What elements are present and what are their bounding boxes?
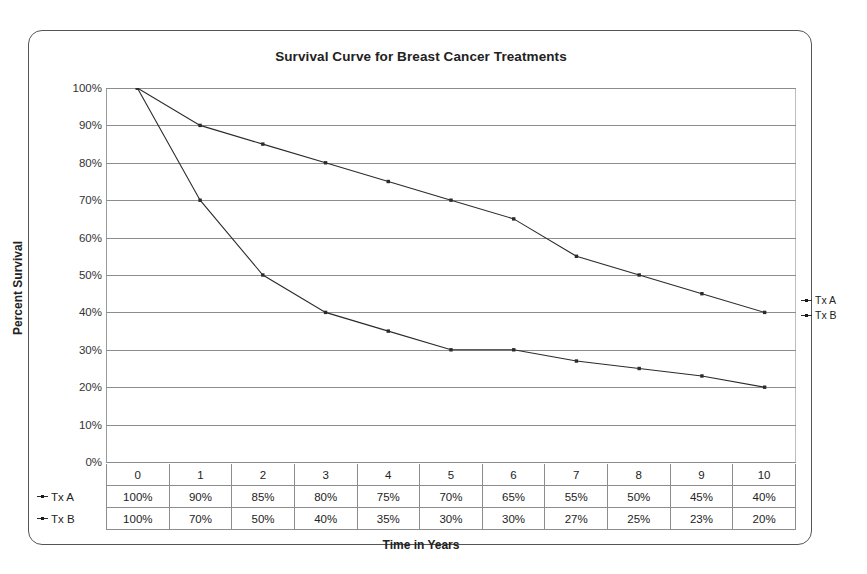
table-cell: 20% <box>733 508 796 530</box>
legend-marker-icon <box>37 515 48 523</box>
chart-title: Survival Curve for Breast Cancer Treatme… <box>29 49 813 64</box>
table-cell: 40% <box>733 486 796 508</box>
table-header-cell: 4 <box>357 464 420 486</box>
table-row-label-text: Tx A <box>51 491 74 503</box>
data-point-marker <box>700 374 703 377</box>
y-axis-tick-label: 100% <box>42 82 102 94</box>
data-point-marker <box>449 348 452 351</box>
legend: Tx ATx B <box>801 293 867 323</box>
table-cell: 30% <box>482 508 545 530</box>
y-axis-tick-label: 60% <box>42 232 102 244</box>
y-axis-tick-label: 20% <box>42 381 102 393</box>
data-point-marker <box>198 124 201 127</box>
series-line-tx-b <box>137 88 764 387</box>
data-point-marker <box>136 88 139 90</box>
table-header-cell: 9 <box>670 464 733 486</box>
data-point-marker <box>763 311 766 314</box>
table-row: 100%Tx A90%85%80%75%70%65%55%50%45%40% <box>107 486 796 508</box>
table-cell: 85% <box>232 486 295 508</box>
data-point-marker <box>324 311 327 314</box>
data-point-marker <box>763 386 766 389</box>
table-header-row: 012345678910 <box>107 464 796 486</box>
table-cell: 50% <box>232 508 295 530</box>
table-header-cell: 10 <box>733 464 796 486</box>
y-axis-tick-label: 80% <box>42 157 102 169</box>
data-point-marker <box>261 273 264 276</box>
data-point-marker <box>449 199 452 202</box>
legend-marker-icon <box>801 297 812 305</box>
data-point-marker <box>637 367 640 370</box>
table-cell: 30% <box>420 508 483 530</box>
data-point-marker <box>637 273 640 276</box>
table-cell: 75% <box>357 486 420 508</box>
table-header-cell: 6 <box>482 464 545 486</box>
data-point-marker <box>198 199 201 202</box>
y-axis-tick-label: 30% <box>42 344 102 356</box>
y-axis-tick-label: 40% <box>42 306 102 318</box>
chart-card: Survival Curve for Breast Cancer Treatme… <box>28 30 812 545</box>
table-header-cell: 3 <box>294 464 357 486</box>
table-cell: 55% <box>545 486 608 508</box>
series-lines <box>106 88 796 462</box>
table-header-cell: 2 <box>232 464 295 486</box>
table-cell: 40% <box>294 508 357 530</box>
data-table: 012345678910100%Tx A90%85%80%75%70%65%55… <box>106 464 796 530</box>
table-cell: 90% <box>169 486 232 508</box>
data-point-marker <box>700 292 703 295</box>
legend-item-tx-b[interactable]: Tx B <box>801 308 867 323</box>
data-point-marker <box>512 348 515 351</box>
y-axis-tick-label: 10% <box>42 419 102 431</box>
legend-item-label: Tx A <box>815 293 836 308</box>
legend-item-label: Tx B <box>815 308 837 323</box>
data-point-marker <box>387 329 390 332</box>
data-point-marker <box>387 180 390 183</box>
legend-marker-icon <box>37 493 48 501</box>
table-header-cell: 7 <box>545 464 608 486</box>
legend-marker-icon <box>801 312 812 320</box>
data-point-marker <box>324 161 327 164</box>
table-cell: 25% <box>608 508 671 530</box>
table-header-cell: 0 <box>107 464 170 486</box>
table-row-label: Tx B <box>37 513 105 525</box>
table-header-cell: 5 <box>420 464 483 486</box>
data-point-marker <box>512 217 515 220</box>
table-cell: 35% <box>357 508 420 530</box>
data-point-marker <box>261 142 264 145</box>
y-axis-tick-label: 0% <box>42 456 102 468</box>
table-cell: 23% <box>670 508 733 530</box>
table-row-label-text: Tx B <box>51 513 75 525</box>
gridline <box>106 462 796 463</box>
table-cell: 100%Tx B <box>107 508 170 530</box>
legend-item-tx-a[interactable]: Tx A <box>801 293 867 308</box>
table-cell: 50% <box>608 486 671 508</box>
table-cell: 80% <box>294 486 357 508</box>
table-cell: 70% <box>420 486 483 508</box>
y-axis-title: Percent Survival <box>11 240 25 334</box>
table-row: 100%Tx B70%50%40%35%30%30%27%25%23%20% <box>107 508 796 530</box>
data-point-marker <box>575 255 578 258</box>
y-axis-tick-label: 90% <box>42 119 102 131</box>
y-axis-tick-label: 50% <box>42 269 102 281</box>
table-header-cell: 8 <box>608 464 671 486</box>
data-point-marker <box>575 359 578 362</box>
plot-wrapper: 100%90%80%70%60%50%40%30%20%10%0% <box>106 88 796 462</box>
table-header-cell: 1 <box>169 464 232 486</box>
table-row-label: Tx A <box>37 491 105 503</box>
table-cell: 27% <box>545 508 608 530</box>
y-axis-tick-label: 70% <box>42 194 102 206</box>
table-cell: 65% <box>482 486 545 508</box>
table-cell: 45% <box>670 486 733 508</box>
table-cell: 70% <box>169 508 232 530</box>
table-cell: 100%Tx A <box>107 486 170 508</box>
x-axis-title: Time in Years <box>29 538 813 552</box>
